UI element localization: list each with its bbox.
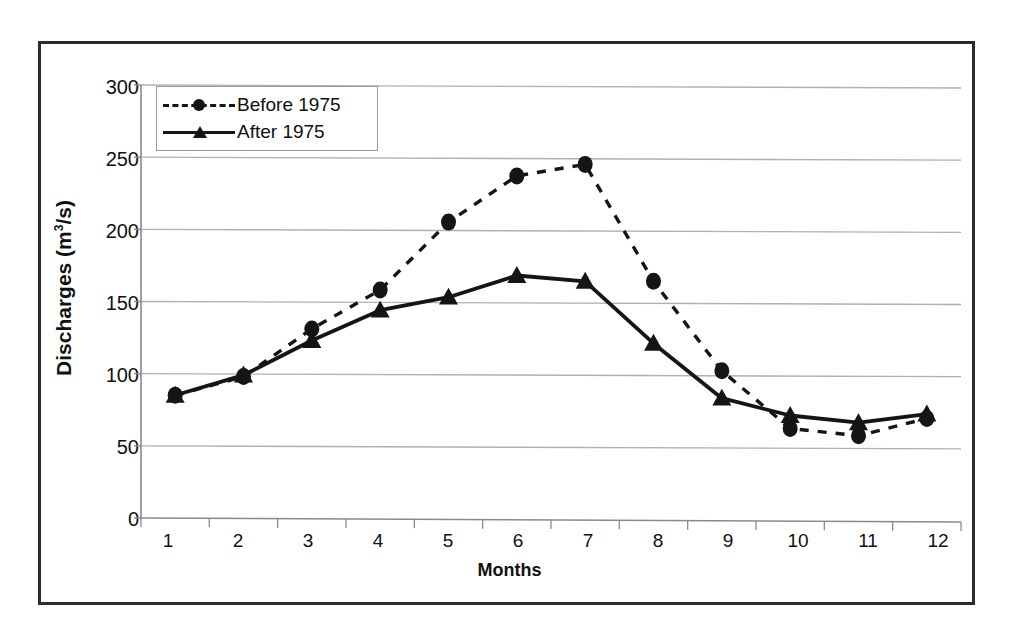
data-point-circle	[646, 273, 661, 290]
legend-label-before-1975: Before 1975	[235, 94, 341, 116]
data-point-circle	[578, 156, 593, 173]
gridline-150	[141, 302, 961, 305]
data-series-layer	[166, 156, 937, 444]
legend-label-after-1975: After 1975	[235, 121, 325, 143]
data-point-circle	[509, 167, 524, 184]
gridline-250	[141, 157, 961, 160]
legend-item-before-1975[interactable]: Before 1975	[163, 91, 371, 118]
legend-swatch-solid-triangle	[163, 122, 235, 142]
data-point-circle	[714, 362, 729, 379]
series-before-1975	[168, 156, 935, 444]
series-line	[175, 276, 927, 423]
y-axis-ticks	[134, 85, 141, 518]
legend-item-after-1975[interactable]: After 1975	[163, 118, 371, 145]
gridline-100	[141, 374, 961, 377]
data-point-circle	[373, 281, 388, 298]
triangle-marker-icon	[193, 126, 207, 138]
chart-plot-area: Discharges (m3/s) Months 300 250 200 150…	[41, 44, 978, 608]
circle-marker-icon	[193, 99, 205, 111]
data-point-circle	[441, 214, 456, 231]
gridline-50	[141, 446, 961, 449]
chart-legend: Before 1975 After 1975	[156, 86, 378, 151]
series-line	[175, 164, 927, 435]
series-after-1975	[166, 266, 937, 430]
legend-swatch-dashed-circle	[163, 95, 235, 115]
gridline-200	[141, 229, 961, 232]
figure-frame: Discharges (m3/s) Months 300 250 200 150…	[38, 41, 975, 605]
